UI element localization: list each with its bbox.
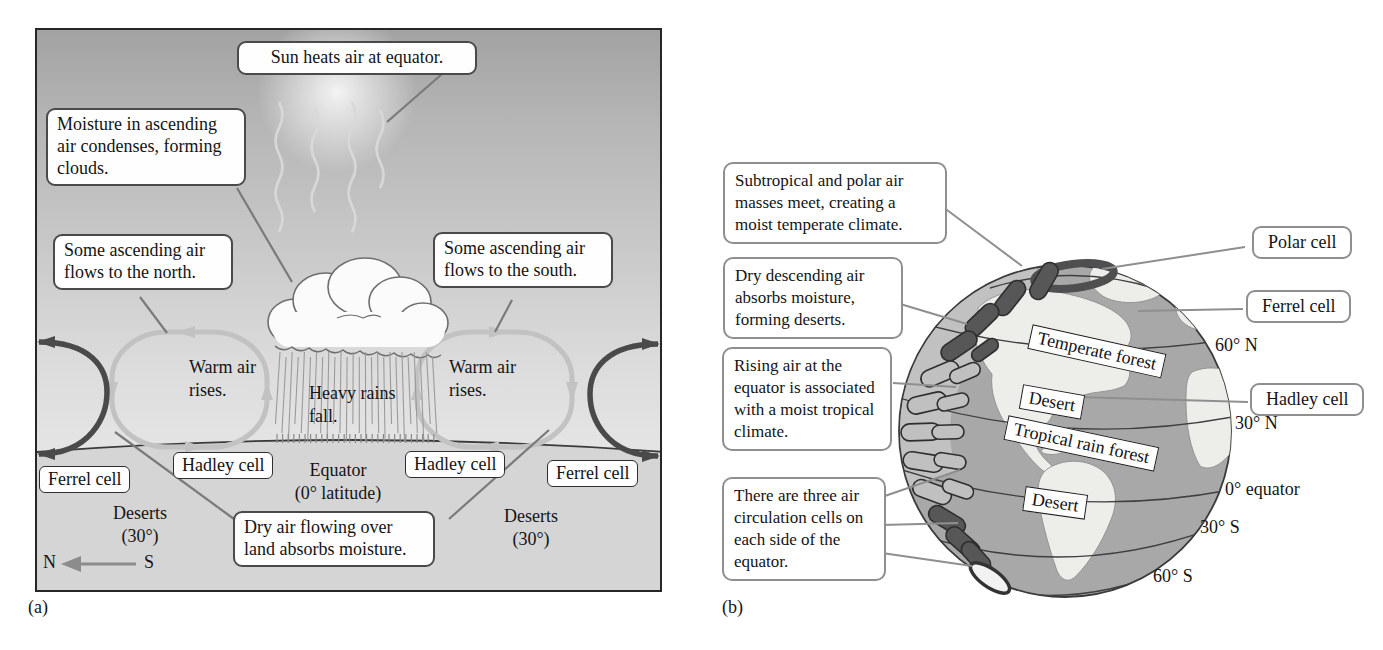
latitude-0-equator: 0° equator [1225,479,1300,500]
figure-canvas: Sun heats air at equator. Moisture in as… [0,0,1383,650]
hadley-cell-box: Hadley cell [1250,383,1364,416]
callout-three-cells: There are three air circulation cells on… [722,477,886,581]
ferrel-cell-box: Ferrel cell [1246,290,1351,323]
polar-cell-box: Polar cell [1252,226,1352,259]
callout-dry-descending: Dry descending air absorbs moisture, for… [723,257,903,339]
latitude-30n: 30° N [1235,413,1278,434]
latitude-30s: 30° S [1200,517,1240,538]
panel-b-artwork [0,0,1383,650]
callout-subtropical-polar: Subtropical and polar air masses meet, c… [723,162,947,244]
latitude-60s: 60° S [1153,566,1193,587]
callout-rising-air: Rising air at the equator is associated … [722,347,892,451]
latitude-60n: 60° N [1215,335,1258,356]
panel-b-letter: (b) [722,597,743,618]
